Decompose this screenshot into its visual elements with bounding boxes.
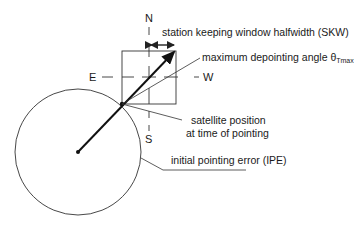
skw-label: station keeping window halfwidth (SKW): [162, 26, 349, 38]
depointing-label-sub: Tmax: [336, 57, 354, 64]
satellite-label-line2: at time of pointing: [186, 127, 269, 139]
south-label: S: [145, 133, 152, 145]
west-label: W: [203, 71, 213, 83]
depointing-label: maximum depointing angle θTmax: [202, 51, 354, 67]
ipe-label: initial pointing error (IPE): [171, 154, 287, 166]
skw-arrow-left-head: [150, 41, 158, 49]
depointing-label-text: maximum depointing angle θ: [202, 51, 336, 63]
east-label: E: [89, 71, 96, 83]
north-label: N: [145, 12, 153, 24]
satellite-label-line1: satellite position: [191, 114, 266, 126]
